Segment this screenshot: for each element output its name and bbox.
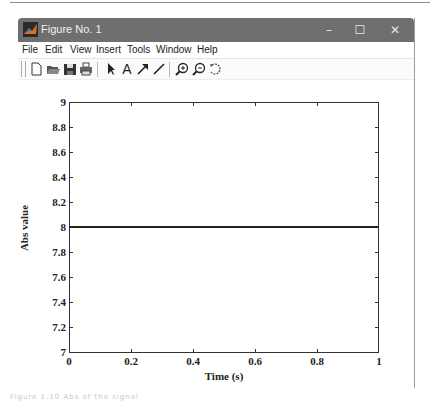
toolbar-separator [97, 62, 98, 77]
tick-mark [375, 127, 378, 128]
menu-tools[interactable]: Tools [127, 44, 150, 55]
y-tick-label: 8.6 [36, 146, 66, 158]
y-tick-label: 9 [36, 96, 66, 108]
y-tick-label: 7.2 [36, 321, 66, 333]
tick-mark [70, 302, 73, 303]
close-button[interactable]: ✕ [384, 21, 406, 39]
y-axis-label: Abs value [18, 205, 30, 251]
title-bar[interactable]: Figure No. 1 – ☐ ✕ [18, 18, 414, 42]
x-tick-label: 0.8 [302, 355, 332, 367]
tick-mark [70, 152, 73, 153]
new-figure-icon[interactable] [28, 61, 44, 77]
x-tick-label: 1 [364, 355, 394, 367]
x-axis-label: Time (s) [205, 370, 244, 382]
zoom-in-icon[interactable] [174, 61, 190, 77]
toolbar-separator [169, 62, 170, 77]
menu-window[interactable]: Window [156, 44, 192, 55]
tick-mark [255, 103, 256, 106]
insert-text-icon[interactable]: A [119, 61, 135, 77]
tick-mark [375, 302, 378, 303]
tick-mark [70, 177, 73, 178]
tick-mark [193, 103, 194, 106]
tick-mark [375, 202, 378, 203]
menu-file[interactable]: File [22, 44, 38, 55]
minimize-button[interactable]: – [318, 21, 340, 39]
maximize-button[interactable]: ☐ [349, 21, 371, 39]
rotate-icon[interactable] [207, 61, 223, 77]
tick-mark [70, 202, 73, 203]
x-tick-label: 0.6 [240, 355, 270, 367]
tick-mark [131, 103, 132, 106]
zoom-out-icon[interactable] [191, 61, 207, 77]
tick-mark [317, 103, 318, 106]
tick-mark [375, 327, 378, 328]
menu-help[interactable]: Help [197, 44, 218, 55]
window-title: Figure No. 1 [41, 23, 102, 35]
save-icon[interactable] [62, 61, 78, 77]
y-tick-label: 7.4 [36, 296, 66, 308]
y-tick-label: 7.8 [36, 246, 66, 258]
tick-mark [193, 349, 194, 352]
y-tick-label: 7.6 [36, 271, 66, 283]
tick-mark [255, 349, 256, 352]
tick-mark [70, 327, 73, 328]
y-tick-label: 8.2 [36, 196, 66, 208]
select-arrow-icon[interactable] [103, 61, 119, 77]
tick-mark [70, 127, 73, 128]
insert-line-icon[interactable] [151, 61, 167, 77]
y-tick-label: 8.8 [36, 121, 66, 133]
menu-bar: File Edit View Insert Tools Window Help [18, 42, 414, 59]
figure-caption: Figure 1.10 Abs of the signal [10, 393, 139, 401]
tick-mark [375, 277, 378, 278]
menu-insert[interactable]: Insert [96, 44, 121, 55]
tick-mark [375, 177, 378, 178]
insert-arrow-icon[interactable] [135, 61, 151, 77]
tick-mark [317, 349, 318, 352]
tick-mark [70, 252, 73, 253]
y-tick-label: 8 [36, 221, 66, 233]
print-icon[interactable] [78, 61, 94, 77]
tick-mark [131, 349, 132, 352]
y-tick-label: 8.4 [36, 171, 66, 183]
menu-edit[interactable]: Edit [45, 44, 62, 55]
data-series-line[interactable] [69, 226, 379, 228]
x-tick-label: 0.2 [116, 355, 146, 367]
toolbar-grip[interactable] [21, 61, 26, 77]
page-rule [10, 2, 430, 3]
x-tick-label: 0 [54, 355, 84, 367]
x-tick-label: 0.4 [178, 355, 208, 367]
open-file-icon[interactable] [45, 61, 61, 77]
matlab-app-icon [23, 22, 38, 37]
menu-view[interactable]: View [70, 44, 92, 55]
toolbar: A [18, 59, 414, 80]
tick-mark [70, 277, 73, 278]
tick-mark [375, 152, 378, 153]
tick-mark [375, 252, 378, 253]
